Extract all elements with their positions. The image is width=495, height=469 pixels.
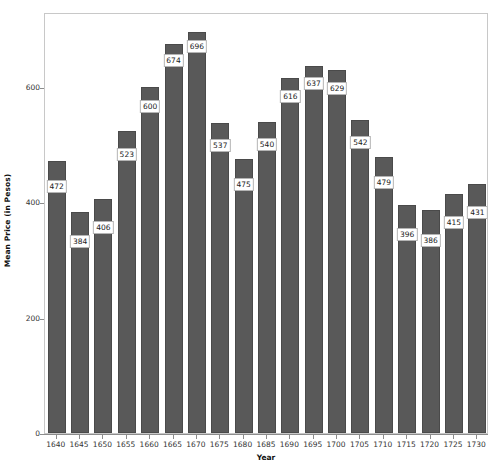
x-axis-tick-label: 1730 [456,440,495,450]
bar-value-label: 696 [187,40,207,53]
bar[interactable] [328,70,346,433]
bar-group[interactable]: 472 [48,14,66,433]
x-axis-tick-mark [313,435,314,439]
y-axis-title: Mean Price (in Pesos) [0,0,16,440]
bar-value-label: 472 [47,180,67,193]
bar-value-label: 616 [280,90,300,103]
bar-group[interactable]: 616 [281,14,299,433]
bar[interactable] [305,66,323,433]
bar[interactable] [141,87,159,433]
bar-group[interactable]: 386 [422,14,440,433]
bar[interactable] [258,122,276,433]
bar-group[interactable]: 479 [375,14,393,433]
bar-group[interactable]: 406 [94,14,112,433]
bar-value-label: 386 [420,234,440,247]
bar-group[interactable]: 696 [188,14,206,433]
bar-group[interactable]: 600 [141,14,159,433]
x-axis-tick-mark [383,435,384,439]
x-axis-tick-mark [126,435,127,439]
bar-value-label: 406 [93,221,113,234]
x-axis-tick-mark [196,435,197,439]
bar[interactable] [445,194,463,433]
bar[interactable] [351,120,369,433]
x-axis-tick-mark [476,435,477,439]
bar-value-label: 475 [233,178,253,191]
bar-value-label: 396 [397,228,417,241]
x-axis-tick-mark [173,435,174,439]
bar-group[interactable]: 523 [118,14,136,433]
x-axis-tick-mark [406,435,407,439]
bar[interactable] [281,78,299,433]
x-axis-tick-mark [79,435,80,439]
bar[interactable] [165,44,183,433]
bar-chart: Mean Price (in Pesos) 0200400600 4723844… [0,0,495,469]
bar-group[interactable]: 384 [71,14,89,433]
x-axis-tick-mark [453,435,454,439]
x-axis-tick-mark [102,435,103,439]
bar-value-label: 674 [163,54,183,67]
bar-value-label: 629 [327,82,347,95]
bar[interactable] [468,184,486,433]
bar-value-label: 542 [350,136,370,149]
bar[interactable] [235,159,253,433]
bar-group[interactable]: 475 [235,14,253,433]
x-axis-title: Year [44,453,488,462]
bar-group[interactable]: 674 [165,14,183,433]
bar[interactable] [188,32,206,433]
x-axis-tick-mark [289,435,290,439]
bar-group[interactable]: 537 [211,14,229,433]
x-axis-tick-mark [430,435,431,439]
bar[interactable] [211,123,229,433]
plot-area: 4723844065236006746965374755406166376295… [44,13,488,434]
x-axis-tick-mark [56,435,57,439]
bar-value-label: 540 [257,138,277,151]
bar-value-label: 537 [210,139,230,152]
bars-layer: 4723844065236006746965374755406166376295… [45,14,487,433]
y-axis-title-text: Mean Price (in Pesos) [4,173,13,267]
x-axis-tick-mark [336,435,337,439]
bar[interactable] [48,161,66,433]
bar-value-label: 600 [140,100,160,113]
bar-group[interactable]: 415 [445,14,463,433]
bar-group[interactable]: 542 [351,14,369,433]
bar-group[interactable]: 629 [328,14,346,433]
bar-value-label: 479 [374,176,394,189]
x-axis-tick-mark [266,435,267,439]
bar[interactable] [375,157,393,433]
bar-group[interactable]: 396 [398,14,416,433]
bar-group[interactable]: 431 [468,14,486,433]
bar-value-label: 384 [70,235,90,248]
x-axis-tick-mark [149,435,150,439]
bar-value-label: 637 [304,77,324,90]
x-axis-tick-mark [219,435,220,439]
bar-value-label: 431 [467,206,487,219]
x-axis-tick-mark [359,435,360,439]
bar[interactable] [118,131,136,433]
bar-value-label: 523 [117,148,137,161]
bar-value-label: 415 [444,216,464,229]
bar-group[interactable]: 540 [258,14,276,433]
bar-group[interactable]: 637 [305,14,323,433]
x-axis-tick-mark [243,435,244,439]
